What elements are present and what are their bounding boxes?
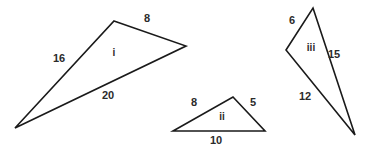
- triangle-i-side-label-20: 20: [102, 89, 114, 101]
- triangles-diagram: 8 16 20 i 8 5 10 ii 6 15 12 iii: [0, 0, 370, 151]
- triangle-iii-name-label: iii: [307, 42, 316, 53]
- triangle-i-side-label-16: 16: [53, 52, 65, 64]
- triangle-ii-side-label-10: 10: [210, 134, 222, 146]
- triangle-i-name-label: i: [113, 47, 116, 58]
- triangle-ii-name-label: ii: [219, 111, 225, 122]
- triangle-i-side-label-8: 8: [144, 12, 150, 24]
- triangle-iii-side-label-6: 6: [289, 14, 295, 26]
- triangle-iii-side-label-12: 12: [299, 90, 311, 102]
- diagram-background: [0, 0, 370, 151]
- triangle-ii-side-label-5: 5: [250, 96, 256, 108]
- triangle-iii-side-label-15: 15: [328, 48, 340, 60]
- triangle-ii-side-label-8: 8: [191, 96, 197, 108]
